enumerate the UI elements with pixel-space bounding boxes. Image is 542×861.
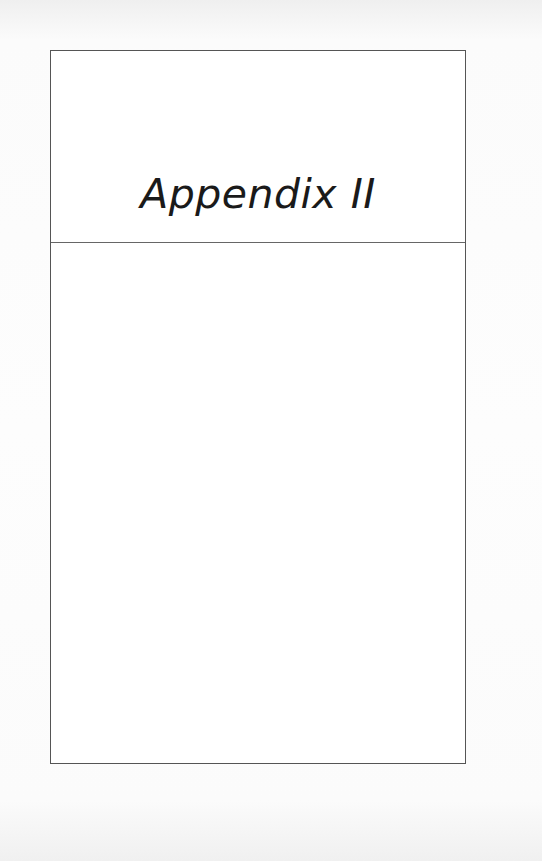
title-panel: Appendix II xyxy=(51,51,465,243)
blank-content-panel xyxy=(51,243,465,763)
appendix-title: Appendix II xyxy=(51,174,465,215)
page-frame: Appendix II xyxy=(50,50,466,764)
